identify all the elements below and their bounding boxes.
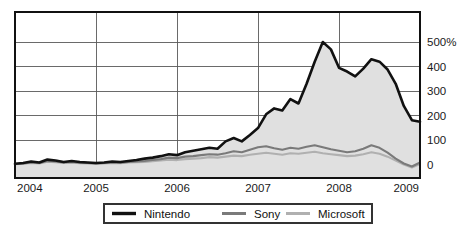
y-axis-tick-label: 500% bbox=[427, 36, 456, 48]
y-axis-tick-label: 0 bbox=[427, 159, 433, 171]
x-axis-tick-label: 2008 bbox=[326, 182, 352, 194]
y-axis-tick-label: 100 bbox=[427, 134, 446, 146]
legend-label-sony: Sony bbox=[254, 208, 280, 220]
legend-label-nintendo: Nintendo bbox=[144, 208, 190, 220]
y-axis-tick-label: 300 bbox=[427, 85, 446, 97]
stock-performance-chart: 0100200300400500% 2004200520062007200820… bbox=[0, 0, 476, 233]
y-axis-tick-label: 400 bbox=[427, 61, 446, 73]
x-axis-tick-label: 2006 bbox=[164, 182, 190, 194]
x-axis-tick-label: 2005 bbox=[83, 182, 109, 194]
chart-canvas: 0100200300400500% 2004200520062007200820… bbox=[0, 0, 476, 233]
x-axis-tick-label: 2004 bbox=[17, 182, 43, 194]
y-axis-tick-label: 200 bbox=[427, 110, 446, 122]
x-axis-tick-label: 2009 bbox=[393, 182, 419, 194]
x-axis-tick-label: 2007 bbox=[245, 182, 271, 194]
chart-legend: NintendoSonyMicrosoft bbox=[104, 204, 372, 223]
legend-label-microsoft: Microsoft bbox=[318, 208, 365, 220]
